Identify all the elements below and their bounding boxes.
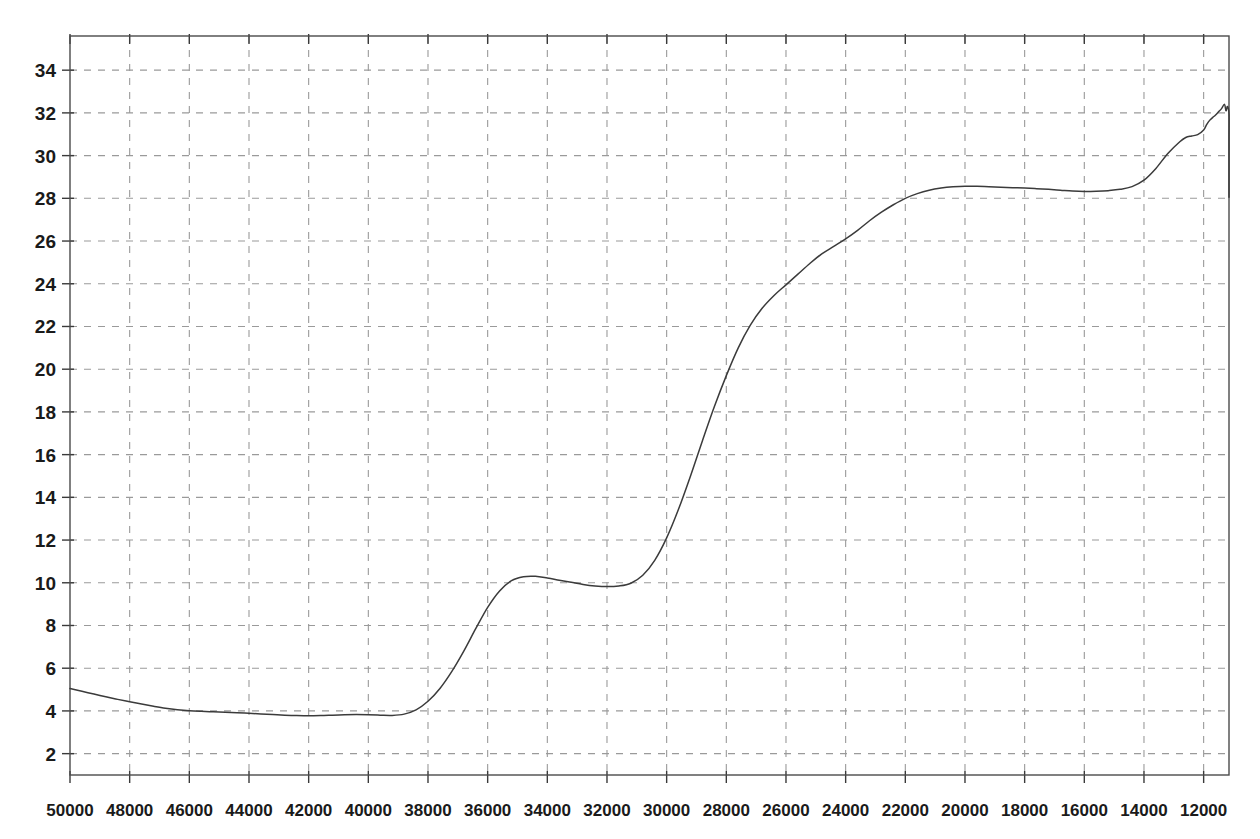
- x-axis-tick-label: 48000: [106, 801, 153, 820]
- x-axis-tick-label: 16000: [1061, 801, 1108, 820]
- x-axis-tick-label: 38000: [404, 801, 451, 820]
- x-axis-tick-label: 50000: [46, 801, 93, 820]
- y-axis-tick-label: 28: [35, 188, 56, 209]
- x-axis-tick-label: 30000: [643, 801, 690, 820]
- tick-marks-group: [62, 34, 1204, 783]
- y-axis-tick-label: 2: [45, 744, 56, 765]
- x-axis-tick-label: 20000: [941, 801, 988, 820]
- data-line-transmittance: [70, 104, 1229, 716]
- y-axis-tick-label: 8: [45, 615, 56, 636]
- plot-border: [70, 36, 1229, 775]
- x-axis-tick-labels: 5000048000460004400042000400003800036000…: [46, 801, 1227, 820]
- grid-lines-group: [70, 36, 1229, 775]
- x-axis-tick-label: 22000: [882, 801, 929, 820]
- chart-container: 343230282624222018161412108642 500004800…: [0, 0, 1260, 839]
- x-axis-tick-label: 32000: [583, 801, 630, 820]
- x-axis-tick-label: 44000: [225, 801, 272, 820]
- y-axis-tick-label: 24: [35, 274, 57, 295]
- spectrum-line-chart: 343230282624222018161412108642 500004800…: [0, 0, 1260, 839]
- y-axis-tick-label: 12: [35, 530, 56, 551]
- y-axis-tick-label: 10: [35, 573, 56, 594]
- y-axis-tick-label: 6: [45, 658, 56, 679]
- x-axis-tick-label: 14000: [1120, 801, 1167, 820]
- x-axis-tick-label: 26000: [762, 801, 809, 820]
- x-axis-tick-label: 42000: [285, 801, 332, 820]
- x-axis-tick-label: 24000: [822, 801, 869, 820]
- x-axis-tick-label: 18000: [1001, 801, 1048, 820]
- x-axis-tick-label: 34000: [524, 801, 571, 820]
- y-axis-tick-label: 34: [35, 60, 57, 81]
- y-axis-tick-label: 22: [35, 316, 56, 337]
- x-axis-tick-label: 40000: [345, 801, 392, 820]
- x-axis-tick-label: 36000: [464, 801, 511, 820]
- y-axis-tick-label: 14: [35, 487, 57, 508]
- y-axis-tick-label: 32: [35, 103, 56, 124]
- x-axis-tick-label: 28000: [703, 801, 750, 820]
- y-axis-tick-label: 4: [45, 701, 56, 722]
- y-axis-tick-label: 20: [35, 359, 56, 380]
- data-series-group: [70, 104, 1229, 716]
- x-axis-tick-label: 12000: [1180, 801, 1227, 820]
- y-axis-tick-label: 30: [35, 146, 56, 167]
- y-axis-tick-label: 16: [35, 445, 56, 466]
- y-axis-tick-label: 18: [35, 402, 56, 423]
- x-axis-tick-label: 46000: [166, 801, 213, 820]
- plot-frame: [70, 36, 1229, 775]
- y-axis-tick-labels: 343230282624222018161412108642: [35, 60, 57, 764]
- y-axis-tick-label: 26: [35, 231, 56, 252]
